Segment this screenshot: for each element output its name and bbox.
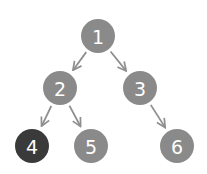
node-label: 2 — [54, 78, 66, 100]
node-label: 1 — [92, 26, 104, 48]
edge-2-4 — [42, 106, 51, 125]
edge-3-6 — [151, 105, 165, 127]
tree-node-5: 5 — [74, 129, 108, 163]
node-label: 6 — [171, 136, 183, 158]
node-label: 4 — [26, 136, 38, 158]
nodes: 123456 — [15, 19, 194, 163]
edge-1-2 — [74, 52, 87, 69]
edge-1-3 — [111, 52, 126, 71]
tree-node-1: 1 — [81, 19, 115, 53]
node-label: 3 — [134, 78, 146, 100]
tree-node-4: 4 — [15, 129, 49, 163]
node-label: 5 — [85, 136, 97, 158]
tree-node-2: 2 — [43, 71, 77, 105]
tree-diagram: 123456 — [0, 0, 207, 174]
edge-2-5 — [69, 106, 80, 126]
tree-node-6: 6 — [160, 129, 194, 163]
tree-node-3: 3 — [123, 71, 157, 105]
